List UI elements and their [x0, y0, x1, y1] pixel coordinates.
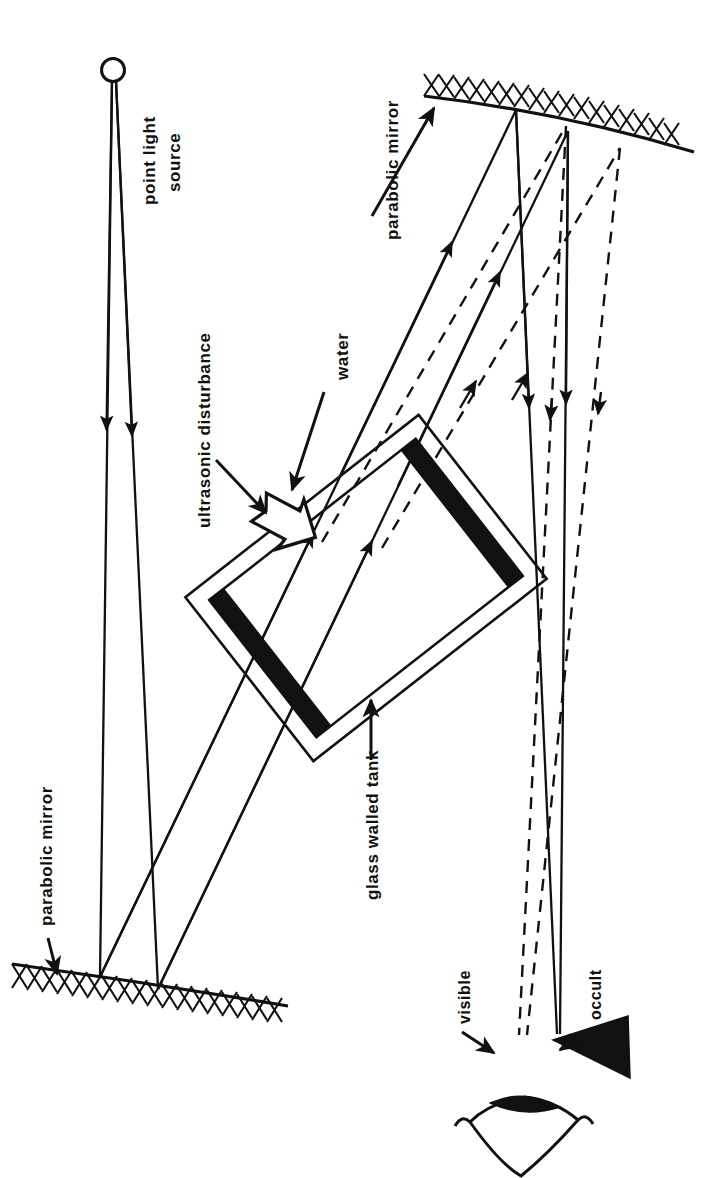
point-light-source-line2: source [165, 133, 184, 192]
glass-walled-tank-text: glass walled tank [363, 750, 382, 900]
ultrasonic-disturbance-text: ultrasonic disturbance [195, 332, 214, 528]
light-source-circle [102, 59, 125, 82]
visible-text: visible [456, 970, 473, 1024]
diagram-canvas: point light source parabolic mirror para… [0, 0, 702, 1178]
schlieren-diagram: point light source parabolic mirror para… [0, 0, 702, 1178]
point-light-source [102, 59, 125, 82]
point-light-source-line1: point light [140, 116, 159, 205]
occult-text: occult [587, 969, 604, 1020]
water-text: water [333, 333, 352, 381]
parabolic-mirror-bottom-text: parabolic mirror [37, 786, 56, 926]
